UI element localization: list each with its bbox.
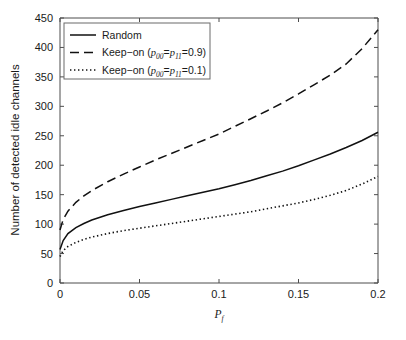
x-axis-title-base: P — [213, 308, 221, 320]
y-tick-label: 250 — [35, 130, 53, 142]
line-chart: 00.050.10.150.2 050100150200250300350400… — [0, 0, 406, 340]
y-axis-title-text: Number of detected idle channels — [9, 64, 21, 236]
y-axis-title: Number of detected idle channels — [9, 64, 21, 236]
chart-figure: 00.050.10.150.2 050100150200250300350400… — [0, 0, 406, 340]
y-tick-label: 300 — [35, 100, 53, 112]
x-tick-label: 0 — [57, 288, 63, 300]
y-tick-label: 200 — [35, 159, 53, 171]
x-tick-label: 0.15 — [288, 288, 309, 300]
y-tick-label: 450 — [35, 12, 53, 24]
y-tick-label: 150 — [35, 189, 53, 201]
y-tick-label: 100 — [35, 218, 53, 230]
y-tick-label: 0 — [47, 277, 53, 289]
x-tick-label: 0.1 — [211, 288, 226, 300]
x-tick-label: 0.05 — [129, 288, 150, 300]
y-tick-label: 50 — [41, 248, 53, 260]
x-tick-label: 0.2 — [370, 288, 385, 300]
legend-label: Random — [102, 29, 142, 41]
legend: RandomKeep−on (p00=p11=0.9)Keep−on (p00=… — [64, 23, 210, 79]
y-tick-label: 350 — [35, 71, 53, 83]
y-tick-label: 400 — [35, 41, 53, 53]
